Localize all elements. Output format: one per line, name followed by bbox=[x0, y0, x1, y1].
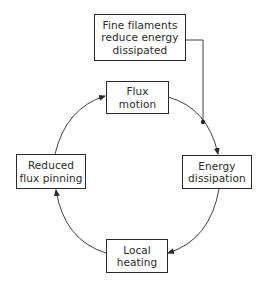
arrow-heating-to-pinning bbox=[56, 190, 106, 253]
node-local-heating: Local heating bbox=[106, 239, 168, 273]
node-fine-filaments: Fine filaments reduce energy dissipated bbox=[94, 14, 186, 61]
node-reduced-flux-pinning: Reduced flux pinning bbox=[16, 154, 86, 189]
node-label-line: Energy bbox=[198, 160, 235, 173]
node-label-line: heating bbox=[117, 256, 158, 269]
node-label-line: Flux bbox=[126, 85, 148, 98]
arrow-pinning-to-flux bbox=[55, 96, 105, 154]
junction-dot bbox=[201, 120, 205, 124]
node-label-line: dissipation bbox=[188, 172, 246, 185]
arrow-flux-to-energy bbox=[168, 97, 218, 154]
node-label-line: Fine filaments bbox=[103, 19, 178, 32]
node-flux-motion: Flux motion bbox=[106, 81, 169, 114]
node-label-line: dissipated bbox=[113, 44, 168, 57]
node-label-line: Local bbox=[123, 244, 151, 257]
node-label-line: reduce energy bbox=[101, 31, 178, 44]
node-label-line: motion bbox=[119, 98, 156, 111]
node-energy-dissipation: Energy dissipation bbox=[182, 155, 252, 189]
arrow-energy-to-heating bbox=[168, 189, 219, 253]
connector-fine-filaments bbox=[185, 40, 203, 122]
node-label-line: Reduced bbox=[28, 159, 74, 172]
node-label-line: flux pinning bbox=[19, 172, 82, 185]
